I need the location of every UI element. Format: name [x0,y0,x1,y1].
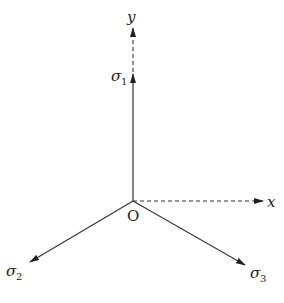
svg-text:1: 1 [121,76,127,87]
svg-text:2: 2 [16,271,22,282]
sigma2-vector [30,201,133,262]
sigma3-label: σ 3 [250,264,266,284]
y-axis-label: y [126,8,136,26]
x-axis-label: x [267,193,276,211]
sigma2-label: σ 2 [6,262,22,282]
sigma1-label: σ 1 [111,67,127,87]
svg-text:3: 3 [260,273,266,284]
sigma3-vector [133,201,245,265]
origin-label: O [127,207,139,225]
stress-axes-diagram: y x O σ 1 σ 2 σ 3 [0,0,284,303]
